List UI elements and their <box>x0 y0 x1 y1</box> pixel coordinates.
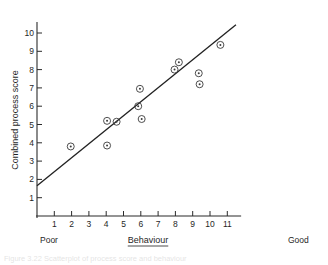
x-tick-label: 2 <box>69 219 74 229</box>
y-tick-label: 1 <box>29 193 34 203</box>
data-point-marker <box>195 70 202 77</box>
x-tick-label: 5 <box>121 219 126 229</box>
x-tick-label: 1 <box>52 219 57 229</box>
data-point-marker <box>171 66 178 73</box>
data-point-marker <box>113 118 120 125</box>
x-axis-title: Behaviour <box>128 235 169 245</box>
regression-line <box>37 25 236 186</box>
x-tick-label: 9 <box>190 219 195 229</box>
y-tick-label: 5 <box>29 120 34 130</box>
x-tick-label: 4 <box>104 219 109 229</box>
y-tick-label: 3 <box>29 156 34 166</box>
y-tick-label: 8 <box>29 65 34 75</box>
data-point-marker <box>136 85 143 92</box>
x-tick-label: 10 <box>205 219 215 229</box>
y-tick-label: 7 <box>29 83 34 93</box>
x-tick-label: 6 <box>138 219 143 229</box>
x-axis-ticks: 1234567891011 <box>52 211 232 229</box>
data-point-marker <box>104 142 111 149</box>
fit-line-segment <box>37 25 236 186</box>
y-axis-title: Combined process score <box>10 70 20 170</box>
data-point-marker <box>217 41 224 48</box>
data-point-marker <box>67 143 74 150</box>
x-tick-label: 11 <box>223 219 232 229</box>
data-point-marker <box>196 81 203 88</box>
x-tick-label: 3 <box>87 219 92 229</box>
y-axis-ticks: 12345678910 <box>25 28 42 203</box>
y-tick-label: 6 <box>29 101 34 111</box>
figure-container: 1234567891011 12345678910 Combined proce… <box>0 0 328 265</box>
figure-caption: Figure 3.22 Scatterplot of process score… <box>4 254 187 263</box>
y-tick-label: 10 <box>25 28 35 38</box>
data-point-marker <box>175 59 182 66</box>
scatter-plot: 1234567891011 12345678910 Combined proce… <box>0 0 328 265</box>
y-tick-label: 2 <box>29 174 34 184</box>
y-tick-label: 9 <box>29 46 34 56</box>
data-point-marker <box>104 117 111 124</box>
data-points <box>67 41 224 150</box>
y-tick-label: 4 <box>29 138 34 148</box>
x-tick-label: 8 <box>173 219 178 229</box>
x-axis-anchor-low: Poor <box>40 235 58 245</box>
x-axis-anchor-high: Good <box>288 235 309 245</box>
x-tick-label: 7 <box>156 219 161 229</box>
data-point-marker <box>138 116 145 123</box>
